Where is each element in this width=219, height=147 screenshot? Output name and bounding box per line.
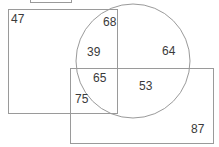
circle <box>76 4 190 118</box>
region-label-68: 68 <box>103 16 116 28</box>
cropped-top-box <box>31 0 72 3</box>
left-rectangle <box>9 10 118 114</box>
diagram-canvas: 47 68 39 64 65 53 75 87 <box>0 0 219 147</box>
region-label-75: 75 <box>75 93 88 105</box>
region-label-64: 64 <box>162 45 175 57</box>
region-label-47: 47 <box>11 13 24 25</box>
region-label-87: 87 <box>191 123 204 135</box>
region-label-39: 39 <box>87 46 100 58</box>
region-label-65: 65 <box>93 72 106 84</box>
region-label-53: 53 <box>139 80 152 92</box>
